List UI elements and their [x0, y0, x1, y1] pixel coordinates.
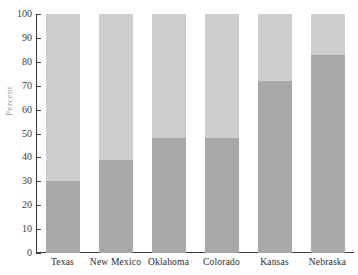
- y-axis-tick-label: 20: [4, 200, 32, 210]
- bar-segment-lower[interactable]: [99, 160, 133, 253]
- stacked-bar[interactable]: [205, 14, 239, 253]
- bar-series-container: [36, 14, 354, 253]
- x-axis-category-label: Nebraska: [301, 257, 354, 268]
- plot-area: 0102030405060708090100 TexasNew MexicoOk…: [36, 14, 354, 253]
- y-axis-tick-label: 10: [4, 224, 32, 234]
- y-axis-tick-label: 70: [4, 81, 32, 91]
- bar-segment-lower[interactable]: [152, 138, 186, 253]
- bar-group[interactable]: [205, 14, 239, 253]
- bar-group[interactable]: [258, 14, 292, 253]
- y-axis-tick-label: 50: [4, 129, 32, 139]
- y-axis-tick-label: 30: [4, 176, 32, 186]
- bar-segment-lower[interactable]: [205, 138, 239, 253]
- stacked-bar[interactable]: [46, 14, 80, 253]
- bar-segment-upper[interactable]: [205, 14, 239, 138]
- x-axis-category-label: New Mexico: [89, 257, 142, 268]
- y-axis-tick-label: 0: [4, 248, 32, 258]
- y-axis-tick-label: 60: [4, 105, 32, 115]
- bar-segment-upper[interactable]: [258, 14, 292, 81]
- stacked-bar-chart: Percent 0102030405060708090100 TexasNew …: [0, 0, 358, 275]
- y-axis-tick-label: 40: [4, 152, 32, 162]
- bar-segment-upper[interactable]: [152, 14, 186, 138]
- stacked-bar[interactable]: [311, 14, 345, 253]
- bar-group[interactable]: [46, 14, 80, 253]
- bar-group[interactable]: [311, 14, 345, 253]
- bar-segment-upper[interactable]: [311, 14, 345, 55]
- bar-segment-upper[interactable]: [99, 14, 133, 160]
- bar-segment-upper[interactable]: [46, 14, 80, 181]
- y-axis-tick: [36, 253, 41, 254]
- bar-segment-lower[interactable]: [258, 81, 292, 253]
- bar-group[interactable]: [99, 14, 133, 253]
- x-axis-category-label: Oklahoma: [142, 257, 195, 268]
- bar-segment-lower[interactable]: [311, 55, 345, 253]
- stacked-bar[interactable]: [152, 14, 186, 253]
- y-axis-tick-label: 100: [4, 9, 32, 19]
- x-axis-category-label: Kansas: [248, 257, 301, 268]
- y-axis-tick-label: 80: [4, 57, 32, 67]
- x-axis-category-label: Colorado: [195, 257, 248, 268]
- bar-segment-lower[interactable]: [46, 181, 80, 253]
- bar-group[interactable]: [152, 14, 186, 253]
- stacked-bar[interactable]: [258, 14, 292, 253]
- x-axis-category-label: Texas: [36, 257, 89, 268]
- stacked-bar[interactable]: [99, 14, 133, 253]
- y-axis-tick-label: 90: [4, 33, 32, 43]
